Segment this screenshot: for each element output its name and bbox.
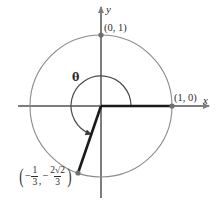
terminal-y-numerator: 2√2 xyxy=(49,166,66,176)
angle-theta-label: θ xyxy=(72,72,79,83)
coordinate-separator: , xyxy=(39,176,42,188)
terminal-y-denominator: 3 xyxy=(54,176,61,187)
point-label-zero-one: (0, 1) xyxy=(104,23,127,34)
open-paren: ( xyxy=(19,166,23,187)
terminal-y-sign: − xyxy=(43,171,49,182)
terminal-x-denominator: 3 xyxy=(31,176,38,187)
point-top-marker xyxy=(98,32,103,37)
terminal-x-coordinate: − 1 3 xyxy=(25,166,38,187)
point-right-marker xyxy=(169,103,174,108)
point-terminal-marker xyxy=(75,170,80,175)
point-label-terminal-coordinates: ( − 1 3 , − 2√2 3 ) xyxy=(18,166,73,187)
terminal-y-fraction: 2√2 3 xyxy=(49,166,66,187)
y-axis-label: y xyxy=(106,4,111,15)
x-axis-label: x xyxy=(203,95,208,106)
terminal-x-fraction: 1 3 xyxy=(31,166,38,187)
terminal-x-sign: − xyxy=(25,171,31,182)
terminal-side-ray xyxy=(78,106,101,173)
close-paren: ) xyxy=(67,166,71,187)
terminal-y-coordinate: − 2√2 3 xyxy=(43,166,66,187)
unit-circle-figure: y x (0, 1) (1, 0) θ ( − 1 3 , − 2√2 3 ) xyxy=(0,0,220,203)
terminal-x-numerator: 1 xyxy=(31,166,38,176)
point-label-one-zero: (1, 0) xyxy=(174,93,197,104)
